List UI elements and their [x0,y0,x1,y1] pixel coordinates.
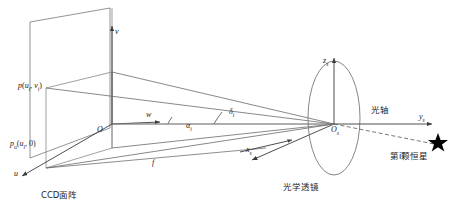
ray-from-image-point [46,88,334,124]
label-optical-axis: 光轴 [371,106,389,115]
label-image-point: p(ui, vi) [18,82,42,92]
label-axis-w: w [146,111,151,119]
label-u-axis-point: pu(ui, 0) [10,140,36,150]
label-axis-ys: ys [419,113,425,123]
label-origin-os: Os [331,126,339,136]
ray-bottom [112,124,334,148]
label-angle-delta: δi [229,108,234,118]
label-ccd-plane: CCD面阵 [41,191,77,200]
label-focal-length: f [152,159,154,167]
line-of-sight-dashed [334,124,434,144]
label-axis-zs: zs [323,57,328,67]
label-axis-u: u [14,170,18,178]
label-origin-o: O [97,126,103,134]
angle-delta-arc [214,112,222,124]
label-axis-xs: xs [246,146,252,156]
diagram-canvas: p(ui, vi) pu(ui, 0) v u w O f αi δi zs y… [0,0,463,215]
axis-xs-line [252,124,334,160]
label-angle-alpha: αi [186,122,192,132]
star-icon [428,133,448,152]
label-star: 第i颗恒星 [390,152,428,161]
image-region-rect [46,72,112,168]
label-optical-lens: 光学透镜 [283,183,319,192]
angle-alpha-arc [168,117,172,124]
label-axis-v: v [115,28,119,36]
